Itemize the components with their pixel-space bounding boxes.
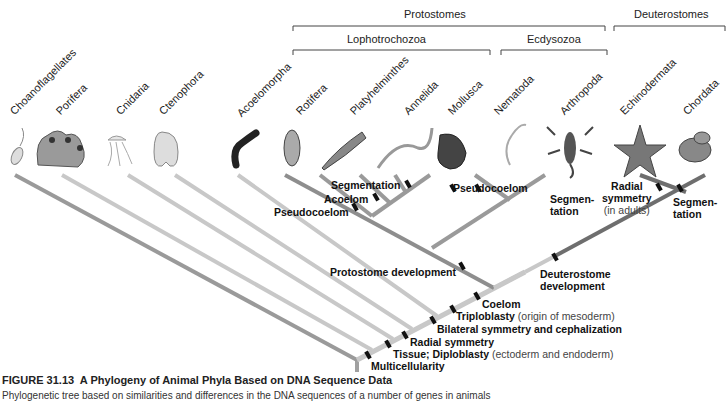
trait-coelom: Coelom	[482, 298, 521, 310]
trait-acoelom: Acoelom	[324, 193, 368, 205]
trait-tissue-diploblasty: Tissue; Diploblasty (ectoderm and endode…	[393, 348, 613, 360]
trait-bilateral-symmetry: Bilateral symmetry and cephalization	[437, 323, 622, 335]
trait-note: (in adults)	[602, 204, 652, 216]
trait-text: Tissue; Diploblasty	[393, 348, 489, 360]
ecdysozoa-bracket	[501, 50, 607, 55]
group-label-protostomes: Protostomes	[404, 8, 466, 20]
choanoflagellate-icon	[9, 128, 26, 166]
trait-line: development	[540, 280, 611, 292]
trait-line: tation	[673, 208, 717, 220]
starfish-icon	[614, 125, 666, 177]
group-label-ecdysozoa: Ecdysozoa	[527, 33, 581, 45]
protostomes-bracket	[293, 26, 605, 31]
trait-radial-symmetry-adults: Radial symmetry (in adults)	[602, 180, 652, 216]
jellyfish-icon	[108, 136, 132, 166]
trait-pseudocoelom-rotifera: Pseudocoelom	[274, 206, 349, 218]
trait-segmentation-lophotrochozoa: Segmentation	[331, 179, 400, 191]
trait-triploblasty: Triploblasty (origin of mesoderm)	[456, 310, 615, 322]
sponge-icon	[37, 131, 84, 167]
trait-protostome-development: Protostome development	[330, 266, 456, 278]
rotifer-icon	[284, 130, 300, 166]
trait-line: Radial	[602, 180, 652, 192]
trait-line: tation	[550, 205, 594, 217]
trait-multicellularity: Multicellularity	[371, 360, 445, 372]
organism-illustrations	[9, 125, 711, 178]
figure-caption-body: Phylogenetic tree based on similarities …	[2, 390, 490, 401]
trait-pseudocoelom-nematoda: Pseudocoelom	[453, 182, 528, 194]
trait-line: Segmen-	[673, 196, 717, 208]
trait-segmentation-chordata: Segmen- tation	[673, 196, 717, 220]
mollusc-shell-icon	[438, 134, 466, 169]
trait-segmentation-arthropoda: Segmen- tation	[550, 193, 594, 217]
roundworm-icon	[506, 125, 526, 165]
frog-icon	[679, 132, 711, 162]
group-label-lophotrochozoa: Lophotrochozoa	[347, 33, 426, 45]
comb-jelly-icon	[154, 132, 178, 166]
trait-line: symmetry	[602, 192, 652, 204]
trait-note: (ectoderm and endoderm)	[492, 348, 613, 360]
acoel-worm-icon	[235, 133, 256, 165]
lophotrochozoa-bracket	[293, 50, 490, 55]
trait-deuterostome-development: Deuterostome development	[540, 268, 611, 292]
trait-radial-symmetry: Radial symmetry	[410, 336, 494, 348]
group-label-deuterostomes: Deuterostomes	[634, 8, 709, 20]
trait-line: Deuterostome	[540, 268, 611, 280]
deuterostomes-bracket	[614, 26, 725, 31]
segmented-worm-icon	[378, 128, 432, 168]
scorpion-icon	[547, 127, 593, 178]
trait-text: Triploblasty	[456, 310, 515, 322]
figure-title: A Phylogeny of Animal Phyla Based on DNA…	[80, 374, 392, 386]
figure-number: FIGURE 31.13	[2, 374, 74, 386]
trait-note: (origin of mesoderm)	[518, 310, 615, 322]
figure-caption-title: FIGURE 31.13 A Phylogeny of Animal Phyla…	[2, 374, 392, 386]
flatworm-icon	[322, 132, 366, 170]
trait-line: Segmen-	[550, 193, 594, 205]
